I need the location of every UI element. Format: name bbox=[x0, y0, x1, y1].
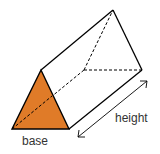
prism-diagram bbox=[0, 0, 160, 154]
height-label: height bbox=[115, 111, 148, 125]
base-triangle bbox=[12, 70, 69, 129]
height-arrow bbox=[78, 81, 147, 137]
base-label: base bbox=[22, 134, 48, 148]
